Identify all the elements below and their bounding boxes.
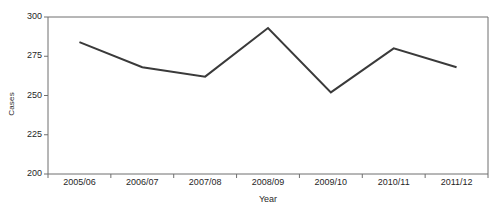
y-axis-ticks <box>44 17 48 174</box>
data-series-line <box>79 28 456 92</box>
x-axis-tick-labels: 2005/062006/072007/082008/092009/102010/… <box>48 178 488 192</box>
line-chart: Cases 200225250275300 2005/062006/072007… <box>0 0 498 216</box>
x-axis-tick-label: 2011/12 <box>441 178 473 187</box>
x-axis-tick-label: 2007/08 <box>189 178 222 187</box>
x-axis-tick-label: 2005/06 <box>63 178 96 187</box>
x-axis-tick-label: 2009/10 <box>315 178 348 187</box>
x-axis-tick-label: 2010/11 <box>378 178 410 187</box>
x-axis-tick-label: 2008/09 <box>252 178 285 187</box>
x-axis-title: Year <box>48 194 488 204</box>
x-axis-tick-label: 2006/07 <box>126 178 159 187</box>
